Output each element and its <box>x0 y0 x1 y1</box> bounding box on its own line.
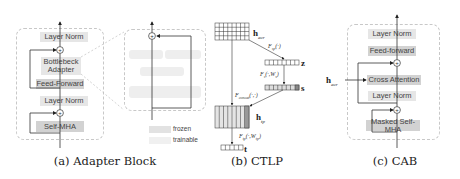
adapter-zoom-lines <box>152 22 191 120</box>
cab-flow-lines <box>345 15 397 148</box>
svg-text:+: + <box>58 110 62 116</box>
t-vector <box>221 145 243 150</box>
diagram-connectors: + + + <box>0 0 460 179</box>
ctlp-arrows <box>232 40 284 144</box>
h-acr-grid <box>215 23 249 40</box>
s-vector <box>265 85 299 90</box>
adapter-flow-lines <box>30 22 60 148</box>
svg-text:+: + <box>395 107 399 113</box>
h-tp-block <box>215 106 249 128</box>
svg-text:+: + <box>395 60 399 66</box>
svg-text:+: + <box>58 47 62 53</box>
zoom-projection-lines <box>81 32 124 110</box>
svg-text:+: + <box>150 33 154 39</box>
z-vector <box>265 60 299 65</box>
